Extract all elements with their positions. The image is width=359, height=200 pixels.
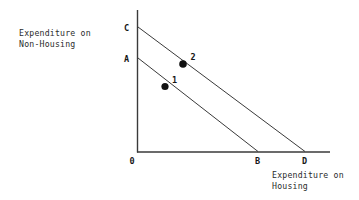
diagram-canvas: C A 0 B D 1 2 bbox=[0, 0, 359, 200]
label-point-2: 2 bbox=[191, 52, 196, 62]
label-b: B bbox=[255, 156, 260, 166]
label-c: C bbox=[124, 23, 129, 33]
data-point-2 bbox=[179, 60, 187, 68]
label-point-1: 1 bbox=[172, 75, 177, 85]
budget-constraint-diagram: Expenditure onNon-Housing Expenditure on… bbox=[0, 0, 359, 200]
label-origin: 0 bbox=[130, 156, 135, 166]
data-point-1 bbox=[161, 83, 168, 90]
label-a: A bbox=[124, 54, 129, 64]
label-d: D bbox=[302, 156, 307, 166]
